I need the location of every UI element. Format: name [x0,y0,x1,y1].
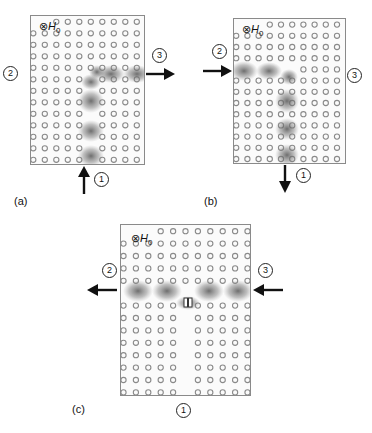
caption-a: (a) [14,195,27,207]
caption-c: (c) [72,403,85,415]
output-arrow-right-icon [146,67,176,81]
panel-c-lattice: ⊗H0 [120,224,251,396]
photonic-crystal-a [31,16,145,165]
output-arrow-left-icon [87,283,117,297]
caption-b: (b) [204,195,217,207]
photonic-crystal-c [121,225,251,396]
h0-field-label: ⊗H0 [131,232,152,247]
port-1-label-b: 1 [296,168,311,183]
port-3-label-a: 3 [152,48,167,63]
port-2-label-c: 2 [102,263,117,278]
port-3-label-b: 3 [347,68,362,83]
input-arrow-left-icon [253,283,283,297]
port-2-label-a: 2 [3,66,18,81]
input-arrow-right-icon [203,64,233,78]
panel-a-lattice: ⊗H0 [30,15,145,165]
port-2-label-b: 2 [212,44,227,59]
h0-field-label: ⊗H0 [39,20,60,35]
input-arrow-up-icon [77,166,91,194]
panel-b-lattice: ⊗H0 [233,18,346,164]
output-arrow-down-icon [278,165,292,193]
port-1-label-a: 1 [94,172,109,187]
port-1-label-c: 1 [176,403,191,418]
h0-field-label: ⊗H0 [242,23,263,38]
port-3-label-c: 3 [258,263,273,278]
photonic-crystal-b [234,19,346,164]
